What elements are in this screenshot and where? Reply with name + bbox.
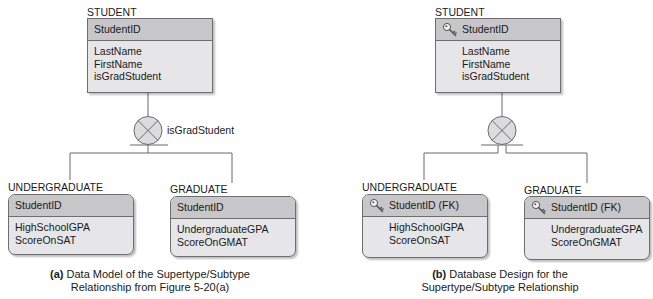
attribute: isGradStudent xyxy=(462,70,554,83)
attribute: HighSchoolGPA xyxy=(15,221,127,234)
entity-attributes: HighSchoolGPA ScoreOnSAT xyxy=(363,217,487,246)
entity-undergraduate-table[interactable]: StudentID (FK) HighSchoolGPA ScoreOnSAT xyxy=(362,194,488,258)
entity-title-undergraduate: UNDERGRADUATE xyxy=(8,181,103,193)
caption-line1: Database Design for the xyxy=(446,268,568,280)
entity-title-student: STUDENT xyxy=(435,6,485,18)
attribute: UndergraduateGPA xyxy=(177,223,289,236)
caption-label: (a) xyxy=(50,268,63,280)
entity-attributes: HighSchoolGPA ScoreOnSAT xyxy=(9,217,133,246)
attribute: LastName xyxy=(94,45,206,58)
entity-graduate-table[interactable]: StudentID (FK) UndergraduateGPA ScoreOnG… xyxy=(524,196,650,260)
entity-primary-key: StudentID xyxy=(171,197,295,219)
entity-title-student: STUDENT xyxy=(87,6,137,18)
category-discriminator-label: isGradStudent xyxy=(167,124,234,136)
caption-label: (b) xyxy=(432,268,446,280)
caption-line2: Supertype/Subtype Relationship xyxy=(370,281,630,294)
entity-student-table[interactable]: StudentID LastName FirstName isGradStude… xyxy=(435,18,561,93)
entity-primary-key-row: StudentID (FK) xyxy=(525,197,649,219)
entity-primary-key: StudentID (FK) xyxy=(551,201,621,213)
entity-attributes: UndergraduateGPA ScoreOnGMAT xyxy=(525,219,649,248)
entity-primary-key: StudentID xyxy=(462,23,509,35)
attribute: LastName xyxy=(462,45,554,58)
entity-graduate[interactable]: StudentID UndergraduateGPA ScoreOnGMAT xyxy=(170,196,296,257)
figure-caption-a: (a) Data Model of the Supertype/Subtype … xyxy=(20,268,280,294)
entity-undergraduate[interactable]: StudentID HighSchoolGPA ScoreOnSAT xyxy=(8,194,134,255)
complete-category-x-circle-icon xyxy=(487,116,517,146)
entity-title-undergraduate: UNDERGRADUATE xyxy=(362,181,457,193)
caption-line1: Data Model of the Supertype/Subtype xyxy=(63,268,250,280)
attribute: ScoreOnSAT xyxy=(15,234,127,247)
figure-caption-b: (b) Database Design for the Supertype/Su… xyxy=(370,268,630,294)
entity-primary-key-row: StudentID xyxy=(436,19,560,41)
entity-title-graduate: GRADUATE xyxy=(524,184,582,196)
attribute: isGradStudent xyxy=(94,70,206,83)
key-icon xyxy=(442,22,458,38)
entity-attributes: LastName FirstName isGradStudent xyxy=(88,41,212,83)
entity-attributes: LastName FirstName isGradStudent xyxy=(436,41,560,83)
entity-attributes: UndergraduateGPA ScoreOnGMAT xyxy=(171,219,295,248)
key-icon xyxy=(531,200,547,216)
entity-student[interactable]: StudentID LastName FirstName isGradStude… xyxy=(87,18,213,93)
attribute: ScoreOnGMAT xyxy=(551,236,643,249)
attribute: ScoreOnSAT xyxy=(389,234,481,247)
key-icon xyxy=(369,198,385,214)
caption-line2: Relationship from Figure 5-20(a) xyxy=(20,281,280,294)
entity-primary-key: StudentID xyxy=(88,19,212,41)
entity-primary-key-row: StudentID (FK) xyxy=(363,195,487,217)
complete-category-x-circle-icon xyxy=(133,116,163,146)
entity-primary-key: StudentID (FK) xyxy=(389,199,459,211)
entity-title-graduate: GRADUATE xyxy=(170,183,228,195)
entity-primary-key: StudentID xyxy=(9,195,133,217)
attribute: FirstName xyxy=(462,58,554,71)
attribute: FirstName xyxy=(94,58,206,71)
attribute: HighSchoolGPA xyxy=(389,221,481,234)
attribute: ScoreOnGMAT xyxy=(177,236,289,249)
attribute: UndergraduateGPA xyxy=(551,223,643,236)
